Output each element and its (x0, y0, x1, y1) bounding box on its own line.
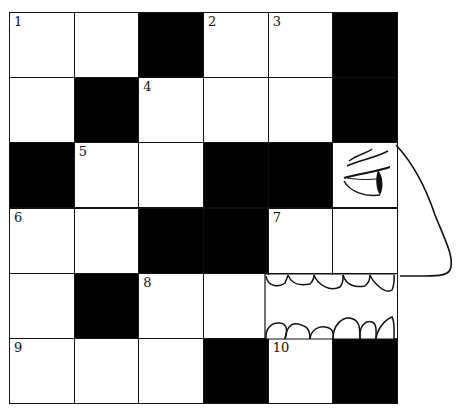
teeth-art-cell (268, 273, 334, 339)
black-square (74, 273, 140, 339)
black-square (332, 338, 398, 404)
crossword-cell[interactable]: 3 (268, 12, 334, 78)
black-square (203, 142, 269, 208)
clue-number: 4 (143, 80, 151, 93)
crossword-cell[interactable] (268, 77, 334, 143)
clue-number: 9 (14, 341, 22, 354)
clue-number: 1 (14, 15, 22, 28)
crossword-cell[interactable]: 8 (138, 273, 204, 339)
crossword-grid: 12345678910 (9, 12, 397, 403)
black-square (332, 77, 398, 143)
clue-number: 3 (273, 15, 281, 28)
clue-number: 8 (143, 276, 151, 289)
crossword-cell[interactable] (138, 142, 204, 208)
crossword-cell[interactable] (9, 273, 75, 339)
crossword-cell[interactable]: 2 (203, 12, 269, 78)
crossword-cell[interactable] (74, 12, 140, 78)
clue-number: 2 (208, 15, 216, 28)
crossword-cell[interactable]: 5 (74, 142, 140, 208)
teeth-art-cell (332, 273, 398, 339)
crossword-cell[interactable] (74, 338, 140, 404)
crossword-cell[interactable] (203, 273, 269, 339)
crossword-cell[interactable] (332, 208, 398, 274)
crossword-cell[interactable] (9, 77, 75, 143)
black-square (203, 338, 269, 404)
crossword-cell[interactable]: 4 (138, 77, 204, 143)
crossword-cell[interactable]: 7 (268, 208, 334, 274)
crossword-cell[interactable]: 10 (268, 338, 334, 404)
black-square (268, 142, 334, 208)
crossword-cell[interactable]: 6 (9, 208, 75, 274)
clue-number: 10 (273, 341, 290, 354)
clue-number: 5 (79, 145, 87, 158)
crossword-cell[interactable]: 9 (9, 338, 75, 404)
black-square (332, 12, 398, 78)
black-square (138, 208, 204, 274)
crossword-cell[interactable] (138, 338, 204, 404)
nose-outline-icon (396, 145, 451, 276)
eye-art-cell (332, 142, 398, 208)
crossword-cell[interactable] (74, 208, 140, 274)
clue-number: 7 (273, 211, 281, 224)
crossword-cell[interactable] (203, 77, 269, 143)
black-square (74, 77, 140, 143)
black-square (203, 208, 269, 274)
black-square (9, 142, 75, 208)
black-square (138, 12, 204, 78)
crossword-cell[interactable]: 1 (9, 12, 75, 78)
clue-number: 6 (14, 211, 22, 224)
